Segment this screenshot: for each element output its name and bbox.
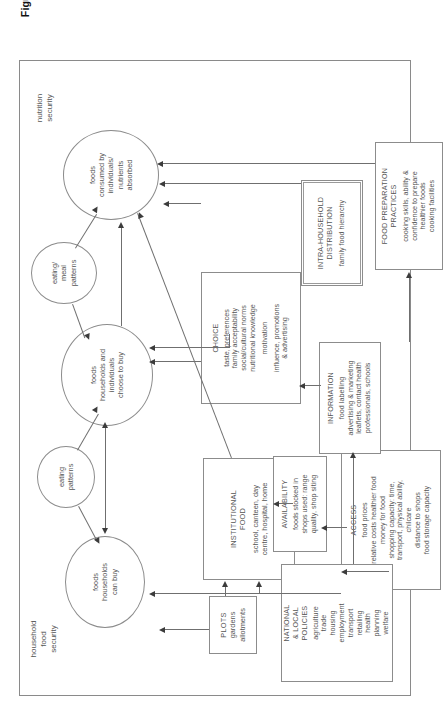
- household-label-line2: food: [39, 594, 49, 684]
- ellipse-line: patterns: [69, 260, 78, 287]
- box-plots: PLOTS gardens allotments: [209, 596, 257, 654]
- box-line: allotments: [238, 608, 247, 642]
- box-title: INFORMATION: [327, 372, 336, 424]
- arrowhead-up: [149, 591, 155, 597]
- nutrition-label-line1: nutrition: [35, 68, 45, 148]
- arrowhead-right: [102, 422, 108, 428]
- arrowhead-up: [149, 359, 155, 365]
- box-national-local-policies: NATIONAL & LOCAL POLICIES agriculture tr…: [281, 564, 393, 682]
- connector-policies-access: [347, 571, 389, 572]
- connector-information-foodprep: [409, 276, 410, 342]
- arrowhead-up: [157, 161, 163, 167]
- box-line: & advertising: [281, 317, 290, 359]
- arrowhead-up: [341, 569, 347, 575]
- household-label-line1: household: [29, 594, 39, 684]
- connector-plots-institutional: [225, 586, 226, 596]
- ellipse-line: choose to buy: [116, 352, 125, 398]
- connector-choice-chooseto: [155, 361, 201, 362]
- box-title: AVAILABILITY: [281, 480, 290, 528]
- connector-policies-availability: [279, 503, 293, 504]
- box-line: food storage capacity: [423, 486, 432, 554]
- ellipse-line: absorbed: [125, 160, 134, 191]
- ellipse-line: eating: [57, 467, 66, 487]
- ellipse-line: foods: [88, 166, 97, 184]
- arrowhead-up: [159, 181, 165, 187]
- ellipse-line: patterns: [66, 464, 75, 491]
- box-line: cooking facilities: [428, 180, 437, 232]
- box-line: centre, hospital, home: [260, 483, 269, 556]
- arrowhead-right: [118, 222, 124, 228]
- connector-canbuy-chooseto: [105, 428, 106, 528]
- arrowhead-up: [273, 501, 279, 507]
- box-line: quality, shop siting: [310, 475, 319, 534]
- nutrition-label-line2: security: [45, 68, 55, 148]
- figure-caption-wrap: Figure 2.1: Determinants of food and nut…: [19, 0, 49, 48]
- box-title: ACCESS: [350, 505, 359, 536]
- arrowhead-right: [222, 581, 228, 587]
- arrowhead-up: [321, 525, 327, 531]
- box-line: welfare: [382, 611, 391, 634]
- box-line: school, canteen, day: [251, 485, 260, 553]
- label-household-food-security: household food security: [29, 594, 59, 684]
- box-title: PLOTS: [219, 612, 228, 637]
- connector-information-choice: [305, 385, 321, 386]
- ellipse-line: individuals/: [106, 157, 115, 194]
- connector-intrahousehold-consumed: [165, 183, 301, 184]
- arrowhead-right: [406, 272, 412, 278]
- ellipse-foods-households-can-buy: foods households can buy: [65, 536, 145, 628]
- ellipse-line: foods: [91, 573, 100, 591]
- arrowhead-up: [149, 345, 155, 351]
- ellipse-line: consumed by: [97, 153, 106, 197]
- ellipse-line: foods: [89, 366, 98, 384]
- connector-choice-chooseto-2: [155, 347, 229, 348]
- ellipse-foods-consumed-nutrients-absorbed: foods consumed by individuals/ nutrients…: [63, 130, 159, 220]
- box-choice: CHOICE taste, preferences family accepta…: [201, 272, 301, 404]
- box-title: DISTRIBUTION: [326, 206, 335, 259]
- ellipse-line: households and: [98, 349, 107, 401]
- arrowhead-left: [102, 528, 108, 534]
- box-title: POLICIES: [301, 606, 310, 641]
- box-information: INFORMATION food labelling advertising &…: [319, 342, 381, 454]
- box-intra-household-distribution: INTRA-HOUSEHOLD DISTRIBUTION family food…: [301, 180, 363, 286]
- ellipse-line: eating/: [50, 262, 59, 284]
- diagram-stage: household food security nutrition securi…: [13, 14, 421, 704]
- arrowhead-up: [163, 201, 169, 207]
- box-line: motivation: [261, 322, 270, 355]
- box-title: INSTITUTIONAL: [229, 490, 238, 548]
- arrowhead-up: [299, 383, 305, 389]
- ellipse-line: nutrients: [116, 161, 125, 189]
- arrowhead-right: [350, 452, 356, 458]
- connector-access-canbuy: [155, 593, 341, 594]
- ellipse-line: meal: [59, 265, 68, 281]
- figure-caption: Figure 2.1: Determinants of food and nut…: [19, 0, 43, 48]
- connector-foodprep-consumed: [163, 163, 375, 164]
- box-title: CHOICE: [212, 323, 221, 352]
- box-line: nutritional knowledge: [249, 304, 258, 372]
- connector-availability-access: [327, 527, 347, 528]
- caption-title: Figure 2.1: Determinants of food and nut…: [19, 0, 31, 48]
- ellipse-foods-households-individuals-choose-to-buy: foods households and individuals choose …: [61, 324, 153, 426]
- arrowhead-up: [159, 627, 165, 633]
- connector-access-institutional: [259, 586, 260, 594]
- box-title: PRACTICES: [390, 185, 399, 228]
- ellipse-line: can buy: [110, 569, 119, 595]
- ellipse-eating-meal-patterns: eating/ meal patterns: [31, 242, 97, 304]
- box-line: gardens: [228, 612, 237, 639]
- connector-choice-consumed: [169, 203, 201, 204]
- ellipse-line: individuals: [107, 358, 116, 393]
- ellipse-eating-patterns: eating patterns: [37, 446, 95, 508]
- label-nutrition-security: nutrition security: [35, 68, 55, 148]
- box-line: professionals, schools: [364, 363, 373, 434]
- box-availability: AVAILABILITY foods stocked in shops used…: [273, 456, 327, 552]
- box-food-preparation-practices: FOOD PREPARATION PRACTICES cooking skill…: [375, 142, 443, 270]
- connector-policies-information: [353, 456, 354, 564]
- ellipse-line: households: [100, 563, 109, 601]
- connector-choice-chooseto-2h: [229, 334, 230, 348]
- arrowhead-right: [256, 581, 262, 587]
- box-line: family food hierarchy: [338, 200, 347, 266]
- connector-chooseto-consumed: [121, 228, 122, 326]
- connector-plots-canbuy: [165, 629, 209, 630]
- household-label-line3: security: [49, 594, 59, 684]
- box-title: FOOD: [238, 508, 247, 530]
